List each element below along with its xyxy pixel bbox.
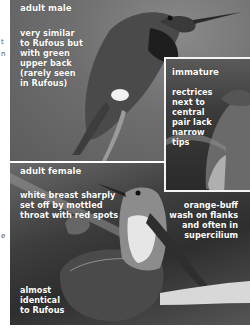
immature-note: rectrices next to central pair lack narr… xyxy=(172,87,212,147)
adult-male-title: adult male xyxy=(20,3,72,13)
adult-female-flank-note: orange-buff wash on flanks and often in … xyxy=(169,200,238,240)
immature-photo-inset: immature rectrices next to central pair … xyxy=(164,57,250,192)
gutter-fragment: n xyxy=(1,50,5,59)
adult-male-note: very similar to Rufous but with green up… xyxy=(20,28,83,88)
adult-female-title: adult female xyxy=(20,166,81,176)
gutter-fragment: t xyxy=(1,38,4,47)
adult-female-identity-note: almost identical to Rufous xyxy=(20,285,64,315)
gutter-fragment: e xyxy=(1,232,5,241)
immature-title: immature xyxy=(172,67,219,77)
adult-female-breast-note: white breast sharply set off by mottled … xyxy=(20,190,118,220)
